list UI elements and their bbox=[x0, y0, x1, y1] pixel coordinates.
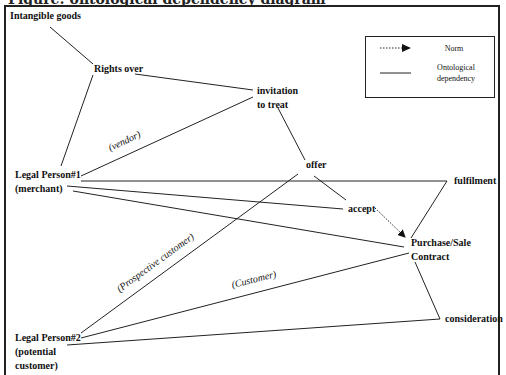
node-lp2-line2: (potential bbox=[15, 345, 81, 359]
node-consideration: consideration bbox=[445, 312, 503, 326]
legend-arrowhead-icon bbox=[402, 44, 411, 52]
edge-lp2-consideration bbox=[67, 319, 440, 345]
node-invitation-line1: invitation bbox=[257, 84, 298, 98]
edge-invitation-offer bbox=[278, 108, 305, 160]
edge-rights-lp1 bbox=[61, 75, 93, 166]
node-offer: offer bbox=[306, 158, 327, 172]
legend-norm-label: Norm bbox=[432, 43, 476, 54]
node-purchase-line2: Contract bbox=[411, 250, 471, 264]
node-intangible-goods: Intangible goods bbox=[10, 9, 81, 23]
legend-box: Norm Ontological dependency bbox=[365, 36, 495, 98]
node-invitation-to-treat: invitation to treat bbox=[257, 84, 298, 112]
legend-ontological-line2: dependency bbox=[426, 73, 486, 84]
legend-ontological-label: Ontological dependency bbox=[426, 62, 486, 84]
node-fulfilment: fulfilment bbox=[454, 174, 496, 188]
edge-lp2-purchase bbox=[81, 253, 409, 338]
edge-offer-accept bbox=[314, 176, 346, 200]
edge-lp1-purchase bbox=[73, 191, 404, 247]
edge-lp1-accept bbox=[67, 186, 343, 209]
node-legal-person-2: Legal Person#2 (potential customer) bbox=[15, 331, 81, 373]
legend-ontological-line1: Ontological bbox=[426, 62, 486, 73]
node-invitation-line2: to treat bbox=[257, 98, 298, 112]
node-lp2-line1: Legal Person#2 bbox=[15, 331, 81, 345]
edge-lp1-invitation bbox=[81, 97, 253, 176]
edge-rights-invitation bbox=[135, 74, 253, 90]
node-lp1-line2: (merchant) bbox=[15, 182, 81, 196]
edge-purchase-consideration bbox=[415, 262, 440, 319]
node-lp2-line3: customer) bbox=[15, 359, 81, 373]
edge-intangible-rights bbox=[50, 27, 93, 64]
node-purchase-line1: Purchase/Sale bbox=[411, 236, 471, 250]
node-lp1-line1: Legal Person#1 bbox=[15, 168, 81, 182]
edge-fulfilment-purchase bbox=[411, 181, 447, 238]
edge-accept-purchase-norm bbox=[375, 208, 405, 237]
node-accept: accept bbox=[348, 202, 375, 216]
node-rights-over: Rights over bbox=[94, 62, 143, 76]
node-purchase-sale-contract: Purchase/Sale Contract bbox=[411, 236, 471, 264]
node-legal-person-1: Legal Person#1 (merchant) bbox=[15, 168, 81, 196]
